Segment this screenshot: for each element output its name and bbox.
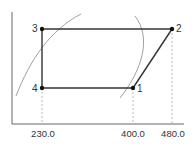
point-3 — [40, 27, 44, 31]
point-1 — [131, 86, 135, 90]
point-label-1: 1 — [137, 83, 143, 94]
x-tick-label: 400.0 — [121, 128, 145, 139]
point-label-3: 3 — [32, 23, 38, 34]
process-2-1 — [133, 29, 172, 88]
x-tick-label: 480.0 — [161, 128, 185, 139]
cycle-diagram: 1 2 3 4 230.0 400.0 480.0 — [0, 0, 194, 146]
x-tick-label: 230.0 — [31, 128, 55, 139]
point-2 — [170, 27, 174, 31]
point-4 — [40, 86, 44, 90]
saturated-liquid-curve — [16, 14, 81, 96]
point-label-2: 2 — [176, 23, 182, 34]
point-label-4: 4 — [32, 83, 38, 94]
